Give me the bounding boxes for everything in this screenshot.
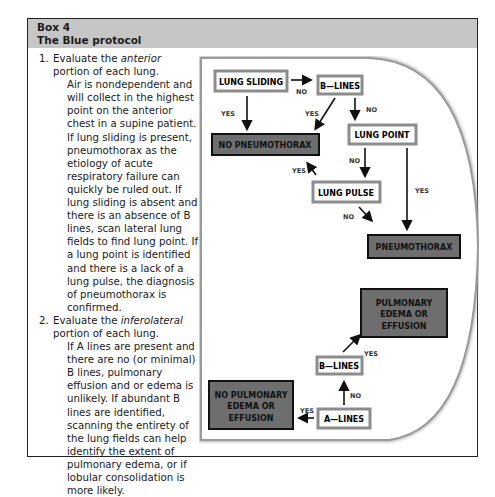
- svg-text:EFFUSION: EFFUSION: [381, 322, 426, 331]
- svg-text:NO PULMONARY: NO PULMONARY: [215, 391, 288, 400]
- node-no-pulmonary-edema: NO PULMONARY EDEMA OR EFFUSION: [209, 381, 293, 429]
- step-number: 2.: [39, 314, 49, 327]
- box-header: Box 4 The Blue protocol: [28, 19, 477, 48]
- svg-text:EDEMA OR: EDEMA OR: [227, 402, 274, 411]
- svg-text:YES: YES: [363, 350, 378, 358]
- protocol-steps: 1. Evaluate the anterior portion of each…: [38, 52, 200, 497]
- step-body: Air is nondependent and will collect in …: [53, 78, 200, 314]
- svg-text:EFFUSION: EFFUSION: [228, 414, 273, 423]
- node-lung-pulse: LUNG PULSE: [313, 182, 380, 202]
- step-heading: Evaluate the inferolateral portion of ea…: [53, 314, 200, 340]
- svg-text:A—LINES: A—LINES: [324, 415, 364, 424]
- step-1: 1. Evaluate the anterior portion of each…: [38, 52, 200, 314]
- svg-text:EDEMA OR: EDEMA OR: [380, 310, 427, 319]
- svg-text:B—LINES: B—LINES: [319, 362, 359, 371]
- step-body: If A lines are present and there are no …: [53, 340, 200, 497]
- step-number: 1.: [39, 52, 49, 65]
- box-title: The Blue protocol: [37, 34, 477, 47]
- blue-protocol-flowchart: LUNG SLIDING B—LINES NO PNEUMOTHORAX LUN…: [199, 56, 479, 444]
- svg-text:NO: NO: [343, 213, 354, 221]
- svg-text:B—LINES: B—LINES: [320, 82, 360, 91]
- svg-text:NO: NO: [296, 88, 307, 96]
- step-2: 2. Evaluate the inferolateral portion of…: [38, 314, 200, 497]
- node-lung-point: LUNG POINT: [349, 125, 416, 144]
- step-heading: Evaluate the anterior portion of each lu…: [53, 52, 200, 78]
- node-b-lines-top: B—LINES: [318, 76, 362, 94]
- svg-text:YES: YES: [414, 187, 429, 195]
- node-b-lines-bottom: B—LINES: [317, 357, 362, 374]
- svg-text:YES: YES: [291, 167, 306, 175]
- svg-text:YES: YES: [299, 407, 314, 415]
- node-no-pneumothorax: NO PNEUMOTHORAX: [212, 134, 319, 155]
- svg-text:LUNG POINT: LUNG POINT: [354, 131, 410, 140]
- svg-text:NO: NO: [366, 106, 377, 114]
- box-number: Box 4: [37, 21, 477, 34]
- svg-text:NO: NO: [350, 392, 361, 400]
- svg-text:NO: NO: [349, 157, 360, 165]
- node-pneumothorax: PNEUMOTHORAX: [368, 235, 460, 258]
- svg-text:LUNG SLIDING: LUNG SLIDING: [219, 78, 283, 87]
- node-lung-sliding: LUNG SLIDING: [215, 71, 287, 91]
- svg-text:PULMONARY: PULMONARY: [376, 299, 433, 308]
- blue-protocol-box: Box 4 The Blue protocol 1. Evaluate the …: [27, 18, 478, 457]
- svg-text:LUNG PULSE: LUNG PULSE: [318, 189, 374, 198]
- svg-text:PNEUMOTHORAX: PNEUMOTHORAX: [376, 243, 454, 252]
- svg-text:YES: YES: [304, 110, 319, 118]
- svg-text:NO PNEUMOTHORAX: NO PNEUMOTHORAX: [218, 141, 312, 150]
- node-a-lines: A—LINES: [318, 409, 370, 428]
- svg-text:YES: YES: [220, 110, 235, 118]
- node-pulmonary-edema: PULMONARY EDEMA OR EFFUSION: [361, 289, 447, 337]
